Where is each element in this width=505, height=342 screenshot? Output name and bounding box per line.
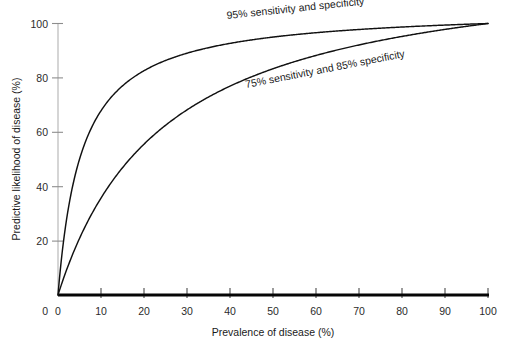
y-tick-label-40: 40: [36, 181, 48, 193]
x-tick-label-90: 90: [439, 305, 451, 317]
x-tick-label-70: 70: [353, 305, 365, 317]
y-tick-label-100: 100: [30, 18, 48, 30]
chart-figure: 100 80 60 40 20 0 0 10 20 30: [0, 0, 505, 342]
x-tick-label-50: 50: [267, 305, 279, 317]
x-axis-title: Prevalence of disease (%): [212, 326, 335, 338]
y-axis-title: Predictive likelihood of disease (%): [10, 78, 22, 241]
x-tick-label-20: 20: [138, 305, 150, 317]
x-tick-label-100: 100: [479, 305, 497, 317]
y-tick-label-80: 80: [36, 72, 48, 84]
x-tick-label-40: 40: [224, 305, 236, 317]
x-tick-label-10: 10: [95, 305, 107, 317]
predictive-likelihood-chart: 100 80 60 40 20 0 0 10 20 30: [0, 0, 505, 342]
x-tick-label-0: 0: [55, 305, 61, 317]
x-tick-label-80: 80: [396, 305, 408, 317]
y-tick-label-60: 60: [36, 126, 48, 138]
y-tick-label-0: 0: [42, 305, 48, 317]
x-tick-label-60: 60: [310, 305, 322, 317]
x-tick-label-30: 30: [181, 305, 193, 317]
y-tick-label-20: 20: [36, 235, 48, 247]
